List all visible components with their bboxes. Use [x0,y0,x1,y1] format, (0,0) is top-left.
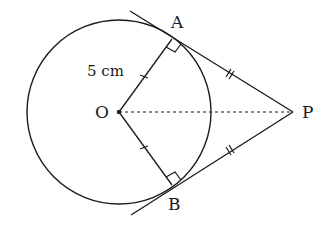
tangent-line-pa [130,11,293,112]
label-b: B [168,194,181,214]
label-p: P [302,102,313,122]
centre-point [117,110,121,114]
tangent-diagram: A B O P 5 cm [0,0,326,228]
tangent-line-pb [131,112,293,215]
radius-label: 5 cm [87,62,124,80]
radius-ob [119,112,172,185]
label-a: A [170,12,184,32]
label-o: O [95,102,109,122]
radius-oa [119,39,172,112]
